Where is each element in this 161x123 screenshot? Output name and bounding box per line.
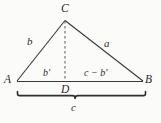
side-line-AC bbox=[17, 21, 65, 82]
brace-label-c: c bbox=[71, 102, 76, 113]
segment-label-c-minus-b-prime: c − b' bbox=[84, 67, 107, 78]
segment-label-b-prime: b' bbox=[43, 67, 50, 78]
vertex-label-C: C bbox=[61, 3, 69, 14]
vertex-label-D: D bbox=[61, 84, 69, 95]
brace-right-half bbox=[75, 92, 145, 99]
figure-canvas bbox=[0, 0, 161, 123]
vertex-label-A: A bbox=[4, 74, 11, 85]
geometry-figure: A B C D b a b' c − b' c bbox=[0, 0, 161, 123]
side-label-a: a bbox=[104, 38, 110, 49]
side-label-b: b bbox=[27, 36, 33, 47]
vertex-label-B: B bbox=[145, 74, 152, 85]
base-brace bbox=[18, 92, 146, 99]
